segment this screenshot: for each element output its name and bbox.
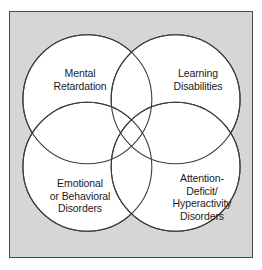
venn-circle-adhd <box>111 102 240 231</box>
figure-root: Mental Retardation Learning Disabilities… <box>0 0 262 270</box>
venn-circles-graphic <box>10 12 252 257</box>
venn-diagram-panel: Mental Retardation Learning Disabilities… <box>9 11 253 258</box>
